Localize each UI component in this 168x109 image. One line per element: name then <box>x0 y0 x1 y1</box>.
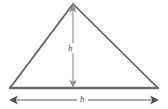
figure-background <box>0 0 168 109</box>
triangle-diagram-figure: h b <box>0 0 168 109</box>
base-label: b <box>79 95 86 104</box>
triangle-diagram-canvas <box>0 0 168 109</box>
height-label: h <box>67 44 74 53</box>
